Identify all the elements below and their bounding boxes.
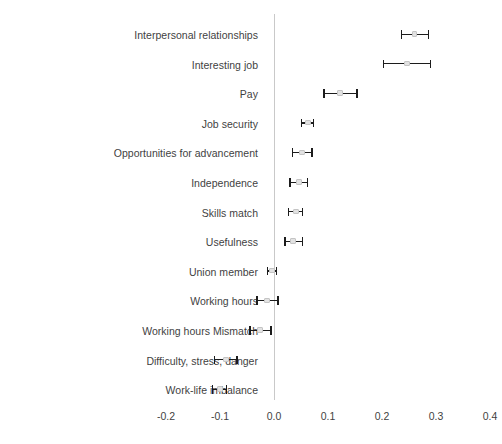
data-row	[289, 176, 308, 188]
estimate-marker	[257, 327, 263, 333]
plot-area: -0.2-0.10.00.10.20.30.4	[0, 0, 502, 444]
x-axis-tick-label: 0.4	[460, 410, 502, 422]
ci-upper-cap	[428, 30, 429, 39]
x-axis-tick-label: -0.2	[136, 410, 196, 422]
estimate-marker	[223, 357, 229, 363]
x-axis-tick-label: 0.2	[352, 410, 412, 422]
ci-lower-cap	[401, 30, 402, 39]
ci-upper-cap	[302, 237, 303, 246]
ci-lower-cap	[301, 119, 302, 128]
data-row	[401, 28, 429, 40]
estimate-marker	[217, 386, 223, 392]
x-axis-tick-label: 0.0	[244, 410, 304, 422]
ci-upper-cap	[311, 148, 312, 157]
ci-lower-cap	[323, 89, 324, 98]
ci-lower-cap	[289, 178, 290, 187]
estimate-marker	[337, 90, 343, 96]
estimate-marker	[404, 61, 410, 67]
x-axis-tick-label: -0.1	[190, 410, 250, 422]
ci-upper-cap	[277, 296, 278, 305]
ci-upper-cap	[307, 178, 308, 187]
ci-lower-cap	[249, 326, 250, 335]
ci-lower-cap	[292, 148, 293, 157]
data-row	[292, 146, 313, 158]
data-row	[249, 324, 272, 336]
ci-lower-cap	[284, 237, 285, 246]
zero-reference-line	[274, 14, 275, 400]
ci-lower-cap	[212, 385, 213, 394]
data-row	[383, 58, 431, 70]
ci-upper-cap	[270, 326, 271, 335]
ci-upper-cap	[276, 267, 277, 276]
ci-lower-cap	[383, 60, 384, 69]
ci-upper-cap	[302, 208, 303, 217]
ci-lower-cap	[214, 356, 215, 365]
estimate-marker	[293, 209, 299, 215]
estimate-marker	[296, 179, 302, 185]
data-row	[301, 117, 314, 129]
estimate-marker	[269, 268, 275, 274]
ci-upper-cap	[313, 119, 314, 128]
data-row	[288, 206, 303, 218]
ci-lower-cap	[288, 208, 289, 217]
ci-upper-cap	[356, 89, 357, 98]
forest-plot-chart: Interpersonal relationshipsInteresting j…	[0, 0, 502, 444]
estimate-marker	[305, 120, 311, 126]
estimate-marker	[299, 150, 305, 156]
estimate-marker	[264, 298, 270, 304]
data-row	[284, 235, 303, 247]
estimate-marker	[412, 31, 418, 37]
data-row	[267, 265, 277, 277]
x-axis-tick-label: 0.3	[406, 410, 466, 422]
ci-lower-cap	[256, 296, 257, 305]
x-axis-tick-label: 0.1	[298, 410, 358, 422]
data-row	[214, 354, 238, 366]
data-row	[323, 87, 358, 99]
data-row	[212, 383, 227, 395]
data-row	[256, 294, 279, 306]
ci-upper-cap	[236, 356, 237, 365]
ci-upper-cap	[226, 385, 227, 394]
ci-upper-cap	[430, 60, 431, 69]
estimate-marker	[290, 238, 296, 244]
